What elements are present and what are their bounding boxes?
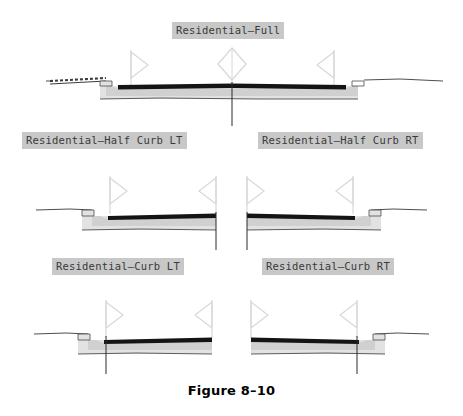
curb-right — [373, 334, 385, 340]
station-marker-right-icon — [336, 176, 353, 214]
sidewalk-left-hatch — [50, 78, 106, 84]
curb-left — [82, 210, 94, 216]
cross-section-residential-curb-rt — [231, 278, 463, 378]
ground-line-right — [364, 79, 443, 81]
station-marker-left-icon — [251, 300, 268, 338]
section-label-residential-half-curb-rt: Residential—Half Curb RT — [258, 132, 423, 149]
station-marker-right-icon — [199, 176, 216, 214]
station-marker-left-icon — [131, 50, 148, 88]
station-marker-right-icon — [340, 300, 357, 338]
station-marker-right-icon — [195, 300, 212, 338]
station-marker-right-icon — [317, 50, 334, 88]
cross-section-residential-half-curb-rt — [231, 152, 463, 252]
cross-section-residential-curb-lt — [0, 278, 232, 378]
section-label-residential-full: Residential—Full — [172, 22, 284, 39]
curb-right — [369, 210, 381, 216]
cross-section-residential-full — [0, 40, 463, 128]
station-marker-left-icon — [110, 176, 127, 214]
cross-section-residential-half-curb-lt — [0, 152, 232, 252]
station-marker-left-icon — [106, 300, 123, 338]
figure-caption: Figure 8–10 — [0, 383, 463, 398]
curb-left — [100, 81, 112, 86]
figure-canvas: Residential—Full — [0, 0, 463, 416]
section-label-residential-curb-rt: Residential—Curb RT — [262, 258, 394, 275]
curb-right — [352, 81, 364, 86]
centerline-marker-icon — [218, 48, 246, 84]
section-label-residential-curb-lt: Residential—Curb LT — [52, 258, 184, 275]
curb-left — [78, 334, 90, 340]
section-label-residential-half-curb-lt: Residential—Half Curb LT — [22, 132, 187, 149]
station-marker-left-icon — [247, 176, 264, 214]
